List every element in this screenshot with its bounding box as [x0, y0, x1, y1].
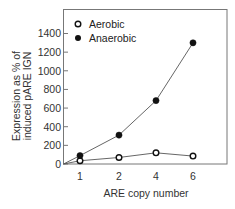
legend-label-aerobic: Aerobic — [89, 18, 125, 30]
y-tick-label: 800 — [43, 83, 61, 95]
line-chart: 0200400600800100012001400 1246 Aerobic A… — [0, 0, 235, 209]
y-axis-title: Expression as % of induced pARE IGN — [10, 51, 33, 141]
y-tick-label: 1400 — [38, 27, 62, 39]
y-tick-label: 1200 — [38, 46, 62, 58]
x-axis-ticks: 1246 — [77, 170, 196, 182]
open-circle-icon — [75, 21, 81, 27]
y-axis-title-line-2: induced pARE IGN — [21, 52, 33, 141]
legend-label-anaerobic: Anaerobic — [89, 32, 136, 44]
x-axis-title: ARE copy number — [103, 187, 189, 199]
series-line — [64, 43, 194, 164]
y-tick-label: 0 — [55, 158, 61, 170]
filled-circle-marker — [116, 132, 122, 138]
filled-circle-marker — [190, 40, 196, 46]
x-tick-label: 4 — [153, 170, 159, 182]
filled-circle-icon — [75, 35, 81, 41]
open-circle-marker — [153, 150, 159, 156]
legend-item-anaerobic: Anaerobic — [75, 32, 136, 44]
x-tick-label: 2 — [116, 170, 122, 182]
filled-circle-marker — [153, 98, 159, 104]
series-layer — [64, 40, 197, 164]
series-aerobic — [64, 150, 196, 164]
y-tick-label: 400 — [43, 121, 61, 133]
y-tick-label: 1000 — [38, 65, 62, 77]
legend: Aerobic Anaerobic — [75, 18, 136, 44]
x-tick-label: 6 — [190, 170, 196, 182]
y-tick-label: 600 — [43, 102, 61, 114]
series-anaerobic — [64, 40, 197, 164]
open-circle-marker — [116, 155, 122, 161]
legend-item-aerobic: Aerobic — [75, 18, 124, 30]
filled-circle-marker — [77, 153, 83, 159]
y-tick-label: 200 — [43, 139, 61, 151]
open-circle-marker — [190, 153, 196, 159]
x-tick-label: 1 — [77, 170, 83, 182]
